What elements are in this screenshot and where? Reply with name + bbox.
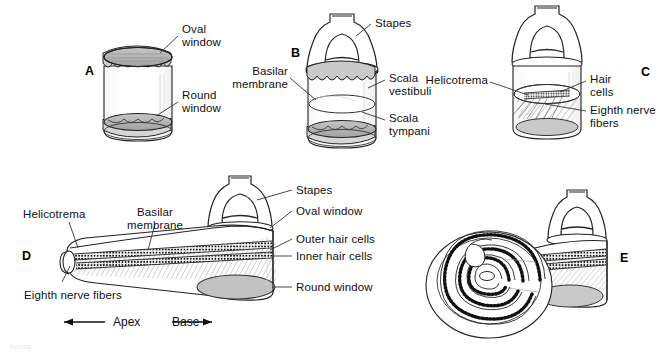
label-helicotrema-c: Helicotrema [413, 74, 488, 87]
label-oval-window-a-line1: Oval [182, 23, 206, 36]
figure-caption: FIGURE [10, 344, 31, 350]
panel-a-artwork [103, 36, 178, 141]
label-eighth-nerve-fibers-d: Eighth nerve fibers [24, 289, 122, 302]
label-apex: Apex [113, 315, 140, 329]
label-base: Base [172, 315, 199, 329]
panel-c-artwork [490, 6, 586, 139]
label-outer-hair-cells-d: Outer hair cells [296, 233, 375, 246]
label-round-window-d: Round window [296, 281, 373, 294]
label-oval-window-d: Oval window [296, 205, 362, 218]
label-scala-vestibuli-line2: vestibuli [389, 85, 431, 98]
panel-letter-d: D [22, 249, 31, 263]
label-scala-tympani-line2: tympani [389, 125, 430, 138]
label-eighth-nerve-fibers-c-line1: Eighth nerve [590, 104, 656, 117]
panel-letter-e: E [620, 251, 628, 265]
panel-b-artwork [290, 14, 385, 148]
label-basilar-membrane-d-line2: membrane [110, 219, 200, 232]
label-round-window-a-line1: Round [182, 89, 216, 102]
panel-letter-c: C [641, 65, 650, 79]
label-stapes-b: Stapes [375, 17, 411, 30]
label-round-window-a-line2: window [182, 102, 221, 115]
label-eighth-nerve-fibers-c-line2: fibers [590, 117, 619, 130]
label-basilar-membrane-b-line2: membrane [198, 78, 288, 91]
label-basilar-membrane-b-line1: Basilar [198, 65, 288, 78]
label-stapes-d: Stapes [296, 184, 332, 197]
panel-letter-b: B [291, 46, 300, 60]
panel-d-artwork [60, 176, 292, 325]
label-oval-window-a-line2: window [182, 36, 221, 49]
panel-letter-a: A [85, 64, 94, 78]
label-inner-hair-cells-d: Inner hair cells [296, 250, 372, 263]
label-basilar-membrane-d-line1: Basilar [110, 206, 200, 219]
cochlea-figure: A B C D E Oval window Round window Stape… [0, 0, 663, 353]
label-scala-tympani-line1: Scala [389, 112, 418, 125]
label-hair-cells-c-line2: cells [590, 86, 614, 99]
panel-e-artwork [426, 190, 607, 338]
label-hair-cells-c-line1: Hair [590, 73, 612, 86]
label-helicotrema-d: Helicotrema [23, 208, 85, 221]
